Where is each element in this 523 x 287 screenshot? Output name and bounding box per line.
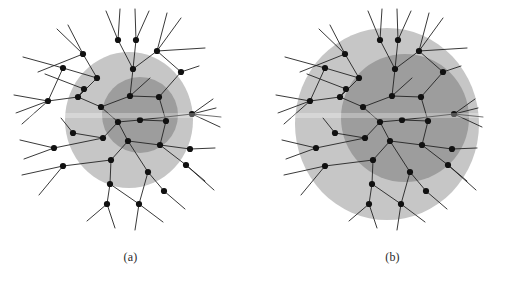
network-node (366, 201, 372, 207)
network-diagram-b (262, 0, 523, 250)
network-node (80, 51, 86, 57)
stub-edge (118, 9, 120, 40)
network-node (445, 162, 451, 168)
stub-edge (164, 191, 185, 209)
network-node (377, 37, 383, 43)
network-node (337, 94, 343, 100)
network-node (115, 119, 121, 125)
network-node (451, 111, 457, 117)
caption-b: (b) (262, 250, 523, 265)
network-node (377, 119, 383, 125)
network-node (127, 93, 133, 99)
stub-edge (57, 29, 83, 54)
stub-edge (20, 140, 54, 148)
network-node (157, 142, 163, 148)
subfigure-panel-b: (b) (262, 0, 523, 287)
network-node (136, 201, 142, 207)
network-node (81, 86, 87, 92)
network-node (108, 157, 114, 163)
network-node (416, 48, 422, 54)
network-node (154, 48, 160, 54)
network-node (398, 201, 404, 207)
stub-edge (22, 101, 48, 124)
stub-edge (14, 95, 48, 101)
network-node (125, 138, 131, 144)
stub-edge (24, 148, 54, 159)
stub-edge (135, 9, 136, 40)
stub-edge (157, 13, 167, 51)
caption-a: (a) (0, 250, 261, 265)
network-node (407, 169, 413, 175)
network-node (137, 117, 143, 123)
stub-edge (106, 11, 118, 40)
network-node (389, 93, 395, 99)
network-node (387, 138, 393, 144)
network-node (178, 69, 184, 75)
stub-edge (136, 11, 149, 40)
network-node (100, 135, 106, 141)
stub-edge (68, 25, 83, 54)
network-node (75, 94, 81, 100)
network-node (60, 163, 66, 169)
network-node (307, 98, 313, 104)
network-node (332, 130, 338, 136)
network-node (107, 181, 113, 187)
network-node (449, 146, 455, 152)
network-node (187, 146, 193, 152)
network-node (343, 86, 349, 92)
network-node (322, 163, 328, 169)
network-node (189, 111, 195, 117)
network-node (395, 37, 401, 43)
network-node (133, 37, 139, 43)
network-node (356, 75, 362, 81)
network-node (130, 66, 136, 72)
network-node (163, 118, 169, 124)
network-node (418, 94, 424, 100)
network-node (322, 65, 328, 71)
network-node (392, 66, 398, 72)
network-diagram-a (0, 0, 261, 250)
network-node (370, 157, 376, 163)
network-node (423, 188, 429, 194)
stub-edge (135, 204, 139, 230)
network-node (104, 201, 110, 207)
network-node (369, 181, 375, 187)
stub-edge (87, 204, 107, 221)
network-node (313, 145, 319, 151)
network-node (115, 37, 121, 43)
network-node (70, 130, 76, 136)
stub-edge (186, 165, 214, 190)
network-node (51, 145, 57, 151)
network-node (156, 94, 162, 100)
network-node (425, 118, 431, 124)
stub-edge (192, 114, 220, 127)
network-node (161, 188, 167, 194)
stub-edge (107, 204, 115, 228)
network-node (98, 104, 104, 110)
network-node (60, 65, 66, 71)
network-node (440, 69, 446, 75)
stub-edge (23, 57, 63, 68)
network-node (342, 51, 348, 57)
edge (48, 68, 63, 101)
subfigure-panel-a: (a) (0, 0, 261, 287)
network-node (183, 162, 189, 168)
stub-edge (192, 114, 221, 117)
network-node (399, 117, 405, 123)
network-node (94, 75, 100, 81)
network-node (362, 135, 368, 141)
figure-container: (a) (b) (0, 0, 523, 287)
network-node (419, 142, 425, 148)
network-node (145, 169, 151, 175)
stub-edge (190, 148, 215, 149)
stub-edge (157, 18, 181, 51)
stub-edge (16, 101, 48, 113)
network-node (360, 104, 366, 110)
stub-edge (157, 48, 205, 51)
stub-edge (139, 204, 163, 222)
network-node (45, 98, 51, 104)
